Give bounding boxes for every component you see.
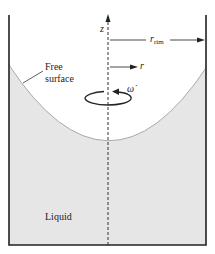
z-axis-arrowhead-icon bbox=[106, 14, 111, 22]
r-rim-arrowhead-icon bbox=[197, 38, 205, 43]
r-axis-label: r bbox=[140, 61, 144, 71]
r-rim-label: rrim bbox=[150, 34, 164, 46]
r-arrowhead-icon bbox=[130, 65, 138, 70]
free-surface-leader-line bbox=[23, 71, 43, 83]
free-surface-label-line1: Free bbox=[45, 62, 63, 72]
z-axis-label: z bbox=[100, 24, 104, 34]
free-surface-label-line2: surface bbox=[45, 74, 74, 84]
r-rim-subscript: rim bbox=[154, 38, 164, 46]
rotating-tank-diagram bbox=[0, 0, 215, 254]
omega-label: ω̇ bbox=[127, 84, 134, 94]
rotation-arrowhead-icon bbox=[112, 89, 119, 96]
liquid-label: Liquid bbox=[45, 212, 72, 222]
